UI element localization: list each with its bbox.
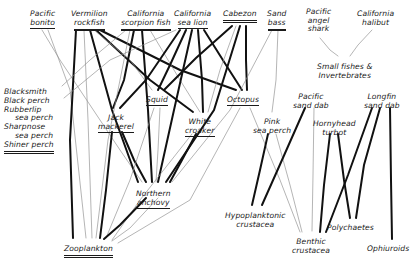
node-label-line: Shiner perch	[4, 141, 54, 152]
node-label-line: sea perch	[253, 126, 291, 135]
food-web-link	[100, 132, 112, 238]
node-perch_group: BlacksmithBlack perchRubberlipsea perchS…	[4, 88, 54, 152]
node-california_halibut: Californiahalibut	[357, 10, 394, 27]
food-web-link	[272, 30, 278, 112]
node-label-line: Northern	[136, 189, 171, 198]
food-web-link	[246, 26, 247, 90]
food-web-link	[156, 108, 160, 182]
food-web-link	[320, 134, 330, 232]
node-label-line: Invertebrates	[318, 71, 371, 80]
node-label-line: bonito	[30, 19, 55, 29]
node-california_scorpion_fish: Californiascorpion fish	[121, 10, 171, 30]
food-web-link	[390, 108, 392, 239]
node-label-line: Cabezon	[223, 10, 257, 21]
food-web-link	[122, 132, 146, 182]
node-label-line: halibut	[362, 18, 389, 27]
food-web-link	[112, 134, 192, 240]
food-web-link	[350, 30, 372, 56]
node-label-line: Blacksmith	[4, 87, 47, 96]
node-label-line: sea perch	[15, 131, 53, 140]
node-label-line: Squid	[146, 96, 168, 106]
node-jack_mackerel: Jackmackerel	[98, 114, 134, 133]
node-label-line: crustacea	[292, 246, 330, 255]
node-label-line: Zooplankton	[64, 245, 113, 256]
node-hornyhead_turbot: Hornyheadturbot	[313, 120, 356, 137]
node-label-line: Ophiuroids	[367, 244, 409, 253]
node-label-line: Polychaetes	[327, 223, 374, 232]
node-hypoplanktonic_crustacea: Hypoplanktoniccrustacea	[225, 212, 286, 229]
node-label-line: Octopus	[227, 96, 259, 106]
node-white_croaker: Whitecroaker	[185, 118, 215, 137]
node-label-line: sand dab	[364, 101, 400, 110]
node-pacific_sand_dab: Pacificsand dab	[293, 93, 329, 110]
food-web-link	[42, 30, 142, 182]
node-polychaetes: Polychaetes	[327, 224, 374, 233]
node-label-line: bass	[268, 19, 286, 30]
food-web-link	[70, 30, 76, 238]
node-northern_anchovy: Northernanchovy	[136, 190, 171, 209]
node-label-line: turbot	[322, 128, 346, 137]
node-label-line: crustacea	[236, 220, 274, 229]
node-pacific_bonito: Pacificbonito	[30, 10, 55, 29]
food-web-link	[356, 108, 380, 218]
food-web-link	[320, 38, 338, 56]
node-label-line: Sand	[267, 9, 287, 18]
node-label-line: anchovy	[137, 199, 170, 209]
food-web-link	[84, 30, 92, 238]
node-pacific_angel_shark: Pacificangelshark	[306, 8, 331, 34]
node-zooplankton: Zooplankton	[64, 245, 113, 256]
node-label-line: Sharpnose	[4, 122, 45, 131]
node-label-line: sea lion	[178, 19, 208, 29]
node-cabezon: Cabezon	[223, 10, 257, 21]
node-label-line: shark	[308, 24, 329, 33]
node-sand_bass: Sandbass	[267, 10, 287, 30]
node-label-line: sea perch	[15, 113, 53, 122]
node-label-line: Rubberlip	[4, 105, 41, 114]
food-web-link	[170, 134, 196, 182]
node-label-line: California	[174, 9, 211, 18]
node-squid: Squid	[146, 96, 168, 106]
node-pink_sea_perch: Pinksea perch	[253, 118, 291, 135]
node-label-line: Pacific	[30, 9, 55, 18]
node-label-line: rockfish	[74, 19, 105, 30]
node-label-line: sand dab	[293, 101, 329, 110]
food-web-link	[96, 30, 130, 238]
node-label-line: Jack	[108, 113, 124, 122]
food-web-link	[198, 30, 203, 112]
food-web-diagram: PacificbonitoVermilionrockfishCalifornia…	[0, 0, 413, 266]
node-label-line: mackerel	[98, 123, 134, 133]
food-web-link	[48, 30, 86, 238]
node-label-line: Black perch	[4, 96, 50, 105]
node-california_sea_lion: Californiasea lion	[174, 10, 211, 29]
food-web-link	[252, 134, 268, 205]
node-ophiuroids: Ophiuroids	[367, 245, 409, 254]
node-label-line: White	[188, 117, 211, 126]
node-benthic_crustacea: Benthiccrustacea	[292, 238, 330, 255]
node-label-line: scorpion fish	[121, 19, 171, 30]
node-label-line: California	[127, 9, 164, 18]
node-label-line: Vermilion	[71, 9, 108, 18]
node-vermilion_rockfish: Vermilionrockfish	[71, 10, 108, 30]
node-longfin_sand_dab: Longfinsand dab	[364, 93, 400, 110]
node-octopus: Octopus	[227, 96, 259, 106]
node-small_fishes_invertebrates: Small fishes &Invertebrates	[317, 63, 372, 80]
node-label-line: croaker	[185, 127, 215, 137]
